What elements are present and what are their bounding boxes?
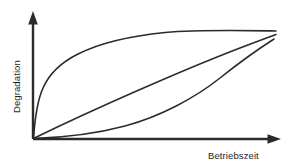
y-axis-label: Degradation: [11, 60, 22, 113]
curve-degressive: [34, 30, 277, 138]
x-axis-label: Betriebszeit: [208, 150, 259, 161]
curve-progressive: [34, 39, 275, 139]
arrow-right-icon: [268, 134, 282, 144]
curve-linear: [34, 35, 277, 139]
degradation-curves-figure: Betriebszeit Degradation: [0, 0, 294, 166]
chart-canvas: Betriebszeit Degradation: [0, 0, 294, 166]
arrow-up-icon: [28, 11, 38, 25]
